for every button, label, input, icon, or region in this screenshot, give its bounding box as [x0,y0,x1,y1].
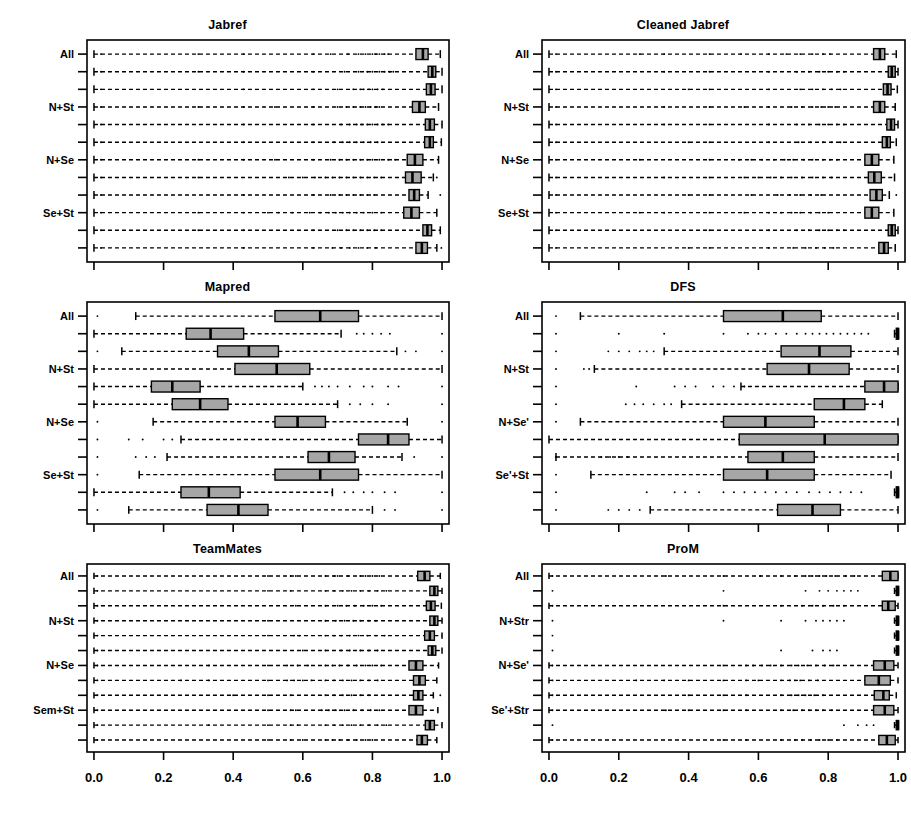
panel-dfs: DFSAllN+StN+Se'Se'+St [455,280,911,542]
panel-teammates: TeamMatesAllN+StN+SeSem+St0.00.20.40.60.… [0,542,455,814]
boxplot-row [552,721,899,730]
x-axis-tick-label: 0.8 [819,770,837,785]
plot-area: AllN+StN+SeSe+St [0,18,455,280]
boxplot-row [549,84,897,95]
boxplot-row [94,172,438,183]
boxplot-row [94,190,441,201]
boxplot-row [549,119,898,130]
y-axis-group-label: N+St [49,363,75,375]
boxplot-row [94,586,442,595]
boxplot-row [94,66,442,77]
y-axis-group-label: Se+St [43,207,74,219]
boxplot-row [96,434,442,445]
boxplot-row [555,504,898,515]
boxplot-row [549,691,896,700]
boxplot-row [94,381,443,392]
x-axis-tick-label: 0.2 [155,770,173,785]
boxplot-row [549,66,898,77]
boxplot-row [549,137,896,148]
x-axis-tick-label: 0.6 [294,770,312,785]
boxplot-row [96,416,442,427]
x-axis-tick-label: 0.2 [610,770,628,785]
y-axis-group-label: Se+St [498,207,529,219]
boxplot-row [96,346,442,357]
boxplot-row [94,706,438,715]
boxplot-row [94,661,439,670]
y-axis-group-label: N+St [49,615,75,627]
boxplot-row [94,207,437,218]
boxplot-row [549,190,897,201]
boxplot-row [555,363,898,374]
boxplot-row [552,616,899,625]
y-axis-group-label: Se'+Str [491,704,529,716]
boxplot-row [96,504,442,515]
x-axis-tick-label: 0.8 [363,770,381,785]
boxplot-row [94,242,442,253]
boxplot-figure-grid: JabrefAllN+StN+SeSe+StCleaned JabrefAllN… [0,0,911,814]
x-axis-tick-label: 0.0 [540,770,558,785]
boxplot-row [549,172,895,183]
boxplot-row [94,137,441,148]
boxplot-row [552,586,899,595]
plot-area: AllN+StN+SeSe+St [455,18,911,280]
boxplot-row [549,207,894,218]
boxplot-row [549,735,898,744]
boxplot-row [555,346,898,357]
boxplot-row [94,691,441,700]
boxplot-row [555,452,898,463]
y-axis-group-label: All [515,570,529,582]
boxplot-row [549,242,895,253]
boxplot-row [549,601,898,610]
y-axis-group-label: All [515,310,529,322]
boxplot-row [555,311,898,322]
y-axis-group-label: N+Se' [499,416,530,428]
boxplot-row [94,225,440,236]
plot-area: AllN+StN+SeSem+St0.00.20.40.60.81.0 [0,542,455,814]
boxplot-row [549,225,898,236]
boxplot-row [94,601,441,610]
boxplot-row [94,154,439,165]
boxplot-row [549,434,898,445]
boxplot-row [94,84,442,95]
y-axis-group-label: N+Se [46,659,74,671]
panel-jabref: JabrefAllN+StN+SeSe+St [0,18,455,280]
boxplot-row [94,487,443,498]
boxplot-row [555,399,882,410]
y-axis-group-label: Sem+St [33,704,74,716]
boxplot-row [94,49,440,60]
boxplot-row [552,631,899,640]
boxplot-row [549,661,898,670]
boxplot-row [555,469,891,480]
y-axis-group-label: All [60,48,74,60]
x-axis-tick-label: 0.4 [680,770,699,785]
y-axis-group-label: N+Se' [499,659,530,671]
boxplot-row [96,452,442,463]
y-axis-group-label: N+Se [46,154,74,166]
panel-mapred: MapredAllN+StN+SeSe+St [0,280,455,542]
boxplot-row [94,631,442,640]
boxplot-row [94,399,443,410]
boxplot-row [94,119,442,130]
x-axis-tick-label: 0.6 [749,770,767,785]
boxplot-row [549,154,894,165]
plot-area: AllN+StN+SeSe+St [0,280,455,542]
y-axis-group-label: Se'+St [496,469,530,481]
boxplot-row [549,49,896,60]
boxplot-row [549,571,898,580]
panel-cleaned-jabref: Cleaned JabrefAllN+StN+SeSe+St [455,18,911,280]
y-axis-group-label: All [60,570,74,582]
y-axis-group-label: All [60,310,74,322]
plot-area: AllN+StrN+Se'Se'+Str0.00.20.40.60.81.0 [455,542,911,814]
boxplot-row [94,646,442,655]
boxplot-row [96,469,442,480]
x-axis-tick-label: 1.0 [433,770,451,785]
boxplot-row [555,381,898,392]
boxplot-row [94,363,442,374]
y-axis-group-label: N+Str [499,615,529,627]
boxplot-row [549,676,898,685]
y-axis-group-label: N+St [504,101,530,113]
y-axis-group-label: Se+St [43,469,74,481]
boxplot-row [555,328,898,339]
boxplot-row [94,328,443,339]
y-axis-group-label: N+St [49,101,75,113]
